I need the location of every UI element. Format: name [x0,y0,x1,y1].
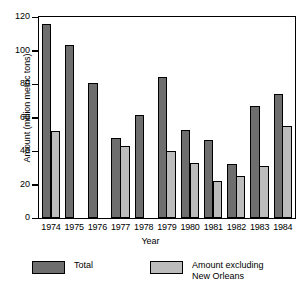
x-axis-title: Year [0,236,301,246]
y-tick-label: 20 [20,179,30,190]
bars-layer [39,17,294,218]
y-tick-label: 0 [25,212,30,223]
bar-group-1976 [86,17,109,218]
bar-group-1975 [63,17,86,218]
bar-excluding-new-orleans-1977 [120,146,129,219]
bar-excluding-new-orleans-1979 [166,151,175,219]
y-tick-label: 60 [20,112,30,123]
chart-legend: TotalAmount excluding New Orleans [0,258,301,292]
legend-entry-total[interactable]: Total [32,260,93,274]
bar-excluding-new-orleans-1982 [236,176,245,219]
bar-group-1978 [132,17,155,218]
bar-excluding-new-orleans-1983 [259,166,268,219]
bar-group-1983 [248,17,271,218]
legend-label: Amount excluding New Orleans [192,260,264,281]
y-tick-label: 40 [20,145,30,156]
bar-total-1975 [65,45,74,218]
bar-chart: Amount (million metric tons) 02040608010… [0,0,301,297]
x-tick-label-1984: 1984 [269,222,296,232]
bar-total-1976 [88,83,97,219]
bar-group-1982 [225,17,248,218]
bar-excluding-new-orleans-1981 [213,181,222,219]
legend-swatch-icon [32,261,65,274]
bar-group-1977 [109,17,132,218]
bar-group-1981 [202,17,225,218]
bar-group-1984 [271,17,294,218]
legend-label: Total [74,260,93,271]
bar-excluding-new-orleans-1974 [51,131,60,218]
legend-entry-excluding-new-orleans[interactable]: Amount excluding New Orleans [150,260,264,281]
y-tick-label: 80 [20,78,30,89]
y-tick-label: 100 [15,45,30,56]
bar-excluding-new-orleans-1980 [190,163,199,218]
bar-group-1974 [39,17,62,218]
bar-excluding-new-orleans-1984 [282,126,291,218]
y-tick-label: 120 [15,11,30,22]
legend-swatch-icon [150,261,183,274]
bar-total-1978 [135,115,144,218]
bar-group-1980 [178,17,201,218]
bar-group-1979 [155,17,178,218]
